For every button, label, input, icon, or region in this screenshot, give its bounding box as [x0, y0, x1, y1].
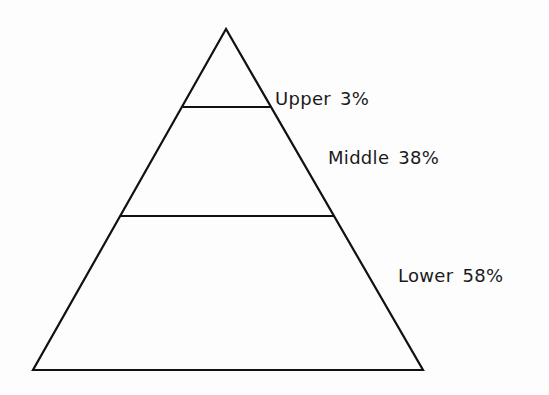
level-percent: 3%	[340, 88, 369, 109]
level-name: Lower	[398, 265, 453, 286]
level-percent: 38%	[398, 147, 439, 168]
level-label-lower: Lower58%	[398, 265, 503, 286]
level-percent: 58%	[462, 265, 503, 286]
level-name: Middle	[328, 147, 389, 168]
level-name: Upper	[275, 88, 331, 109]
level-label-upper: Upper3%	[275, 88, 369, 109]
level-label-middle: Middle38%	[328, 147, 439, 168]
pyramid-diagram: Upper3% Middle38% Lower58%	[0, 0, 549, 395]
pyramid-shape	[0, 0, 549, 395]
